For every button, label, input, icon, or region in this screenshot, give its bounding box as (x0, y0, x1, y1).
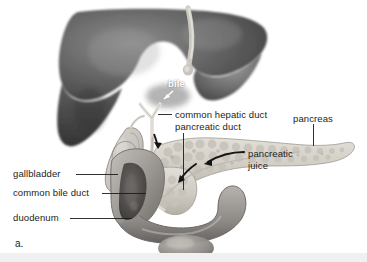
label-pancreatic-duct: pancreatic duct (175, 121, 241, 132)
label-pancreatic-juice-line1: pancreatic (248, 148, 293, 159)
label-pancreatic-juice-line2: juice (248, 160, 268, 171)
common-hepatic-duct (140, 104, 160, 138)
bottom-edge-strip (0, 253, 367, 262)
label-pancreas: pancreas (293, 113, 333, 124)
label-gallbladder: gallbladder (13, 168, 61, 179)
label-common-bile-duct: common bile duct (13, 187, 89, 198)
figure-panel: bile common hepatic duct pancreatic duct… (0, 0, 367, 262)
label-duodenum: duodenum (13, 212, 59, 223)
panel-letter: a. (15, 238, 23, 249)
label-bile: bile (168, 78, 185, 89)
label-common-hepatic-duct: common hepatic duct (175, 109, 267, 120)
